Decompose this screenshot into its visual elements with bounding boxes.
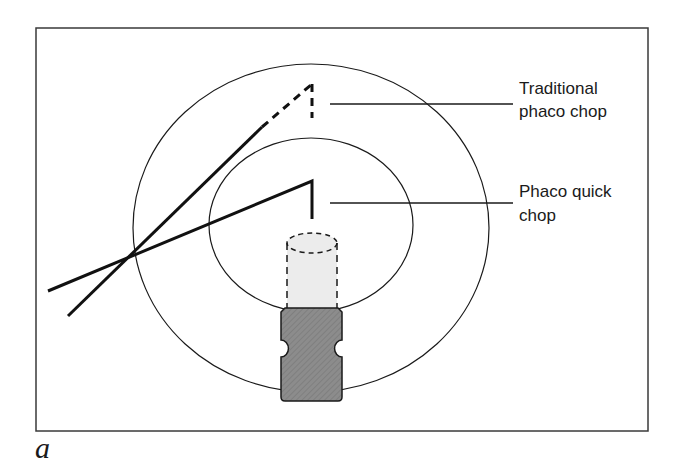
phaco-handle [281,308,342,401]
quick-label-line1: Phaco quick [519,182,612,201]
phaco-chop-diagram: Traditional phaco chop Phaco quick chop … [0,0,684,464]
phaco-tip [287,233,337,309]
quick-label-line2: chop [519,206,556,225]
panel-label: a [35,431,50,464]
traditional-label-line2: phaco chop [519,102,607,121]
traditional-label-line1: Traditional [519,79,598,98]
traditional-chopper-path [68,84,312,316]
quick-chopper-path [48,181,312,291]
